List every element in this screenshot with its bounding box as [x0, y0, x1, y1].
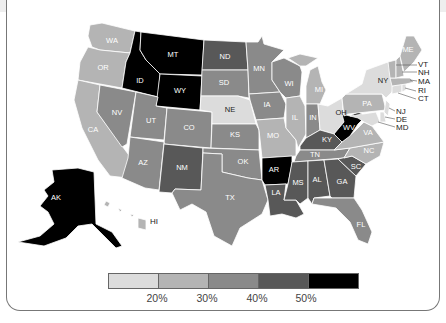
legend-tick-20: 20%: [146, 292, 167, 304]
label-wy: WY: [174, 86, 186, 95]
label-ks: KS: [230, 130, 240, 139]
label-tn: TN: [310, 150, 320, 159]
label-fl: FL: [357, 220, 366, 229]
label-ky: KY: [322, 135, 332, 144]
leader-nj: [389, 108, 395, 111]
label-mo: MO: [267, 131, 279, 140]
legend-color-scale: [108, 273, 359, 289]
label-id: ID: [136, 76, 144, 85]
label-ar: AR: [269, 165, 280, 174]
label-md: MD: [396, 123, 409, 132]
legend-tick-40: 40%: [246, 292, 267, 304]
label-va: VA: [363, 128, 372, 137]
legend-tick-50: 50%: [295, 292, 316, 304]
legend-ticks: 20% 30% 40% 50%: [0, 292, 446, 306]
label-tx: TX: [225, 193, 235, 202]
legend-swatch-1: [159, 274, 209, 288]
label-ny: NY: [378, 76, 388, 85]
label-ut: UT: [146, 116, 156, 125]
label-az: AZ: [138, 158, 148, 167]
label-me: ME: [402, 45, 413, 54]
leader-md: [378, 122, 395, 127]
label-mi: MI: [315, 85, 323, 94]
label-ak: AK: [51, 193, 61, 202]
label-nm: NM: [176, 163, 188, 172]
label-nh: NH: [418, 68, 430, 77]
label-wv: WV: [343, 123, 355, 132]
legend-swatch-4: [309, 274, 358, 288]
label-pa: PA: [362, 99, 371, 108]
legend-swatch-2: [209, 274, 259, 288]
legend-swatch-3: [259, 274, 309, 288]
leader-ri: [405, 88, 416, 91]
label-la: LA: [271, 188, 280, 197]
label-nc: NC: [364, 146, 375, 155]
label-mn: MN: [253, 64, 265, 73]
label-al: AL: [312, 175, 321, 184]
label-ok: OK: [238, 157, 249, 166]
label-ia: IA: [263, 100, 270, 109]
label-mt: MT: [168, 50, 179, 59]
label-nv: NV: [112, 108, 122, 117]
label-co: CO: [183, 123, 194, 132]
leader-de: [385, 117, 395, 119]
legend-swatch-0: [109, 274, 159, 288]
label-hi: HI: [150, 217, 158, 226]
label-ct: CT: [418, 94, 429, 103]
label-or: OR: [97, 63, 109, 72]
label-ma: MA: [418, 77, 431, 86]
label-in: IN: [309, 113, 317, 122]
label-wi: WI: [284, 79, 293, 88]
label-wa: WA: [106, 36, 118, 45]
label-ca: CA: [88, 125, 98, 134]
label-oh: OH: [335, 108, 346, 117]
label-nd: ND: [220, 52, 231, 61]
leader-ct: [398, 93, 416, 99]
label-sd: SD: [219, 78, 230, 87]
label-ne: NE: [225, 105, 235, 114]
legend-tick-30: 30%: [196, 292, 217, 304]
leader-ma: [410, 80, 417, 81]
label-ms: MS: [292, 178, 303, 187]
label-il: IL: [292, 113, 298, 122]
label-ga: GA: [337, 177, 348, 186]
label-sc: SC: [351, 162, 362, 171]
